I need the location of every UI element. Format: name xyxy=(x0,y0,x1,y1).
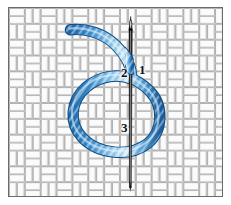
diagram-canvas: 1 2 3 xyxy=(0,0,231,205)
needle-eye xyxy=(130,20,132,29)
sewing-needle xyxy=(129,16,133,192)
label-3: 3 xyxy=(121,121,128,134)
stitch-illustration xyxy=(9,8,222,196)
label-1: 1 xyxy=(139,63,146,76)
label-2: 2 xyxy=(121,66,128,79)
diagram-frame: 1 2 3 xyxy=(8,7,223,197)
thread-twist-texture xyxy=(70,29,159,152)
